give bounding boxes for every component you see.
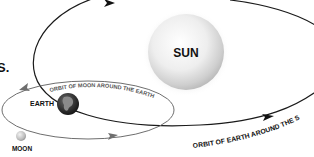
moon-orbit: ORBIT OF MOON AROUND THE EARTH xyxy=(2,81,174,140)
diagram-canvas: SUN ORBIT OF MOON AROUND THE EARTH EARTH… xyxy=(0,0,314,157)
sun: SUN xyxy=(142,9,230,97)
earth: EARTH xyxy=(30,93,79,115)
moon-orbit-arrow-left-icon xyxy=(19,83,30,91)
earth-orbit-arrow-bottom-icon xyxy=(262,114,274,121)
sun-earth-moon-diagram: SUN ORBIT OF MOON AROUND THE EARTH EARTH… xyxy=(0,0,314,157)
moon: MOON xyxy=(12,131,33,152)
moon-label: MOON xyxy=(12,145,33,152)
sun-label: SUN xyxy=(173,46,198,60)
earth-orbit-arrow-top-icon xyxy=(104,0,115,7)
earth-label: EARTH xyxy=(30,100,54,107)
cropped-text-fragment: S. xyxy=(0,60,9,75)
moon-orbit-arrow-bottom-icon xyxy=(108,133,118,140)
